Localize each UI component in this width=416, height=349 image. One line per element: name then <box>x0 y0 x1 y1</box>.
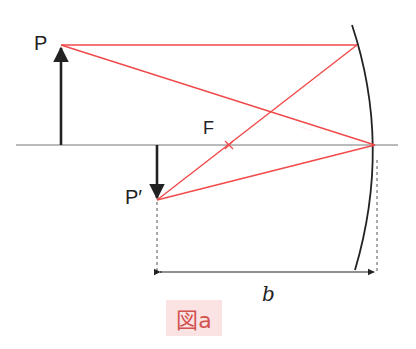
concave-mirror-diagram <box>0 0 416 349</box>
focal-point-label: F <box>203 118 214 139</box>
figure-caption: 図a <box>166 300 222 336</box>
object-point-label: P <box>34 32 47 55</box>
light-rays <box>61 45 375 200</box>
ray-direction-arrows <box>197 45 322 190</box>
distance-label: b <box>262 282 275 306</box>
image-point-label: P′ <box>125 186 142 209</box>
